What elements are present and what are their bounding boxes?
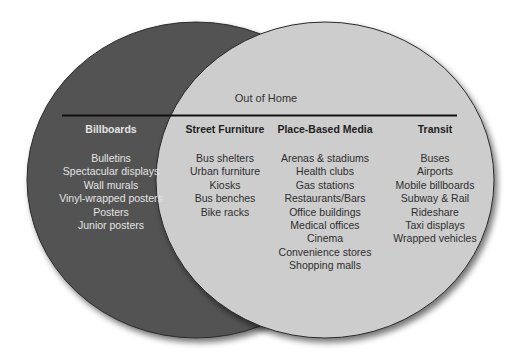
list-item: Junior posters (36, 219, 186, 232)
list-item: Kiosks (170, 179, 280, 192)
list-item: Shopping malls (265, 259, 385, 272)
place-based-media-heading: Place-Based Media (265, 123, 385, 136)
transit-heading: Transit (380, 123, 490, 136)
list-item: Medical offices (265, 219, 385, 232)
list-item: Cinema (265, 232, 385, 245)
list-item: Wall murals (36, 179, 186, 192)
list-item: Health clubs (265, 165, 385, 178)
place-based-media-column: Place-Based Media Arenas & stadiums Heal… (265, 123, 385, 273)
billboards-heading: Billboards (36, 123, 186, 136)
transit-column: Transit Buses Airports Mobile billboards… (380, 123, 490, 246)
list-item: Spectacular displays (36, 165, 186, 178)
list-item: Bus shelters (170, 152, 280, 165)
list-item: Arenas & stadiums (265, 152, 385, 165)
list-item: Restaurants/Bars (265, 192, 385, 205)
list-item: Vinyl-wrapped posters (36, 192, 186, 205)
list-item: Subway & Rail (380, 192, 490, 205)
list-item: Bulletins (36, 152, 186, 165)
list-item: Rideshare (380, 206, 490, 219)
list-item: Mobile billboards (380, 179, 490, 192)
list-item: Bike racks (170, 206, 280, 219)
billboards-column: Billboards Bulletins Spectacular display… (36, 123, 186, 232)
list-item: Airports (380, 165, 490, 178)
list-item: Buses (380, 152, 490, 165)
list-item: Posters (36, 206, 186, 219)
street-furniture-column: Street Furniture Bus shelters Urban furn… (170, 123, 280, 219)
list-item: Bus benches (170, 192, 280, 205)
list-item: Taxi displays (380, 219, 490, 232)
list-item: Wrapped vehicles (380, 232, 490, 245)
out-of-home-label: Out of Home (200, 92, 332, 104)
list-item: Office buildings (265, 206, 385, 219)
list-item: Convenience stores (265, 246, 385, 259)
list-item: Urban furniture (170, 165, 280, 178)
street-furniture-heading: Street Furniture (170, 123, 280, 136)
list-item: Gas stations (265, 179, 385, 192)
